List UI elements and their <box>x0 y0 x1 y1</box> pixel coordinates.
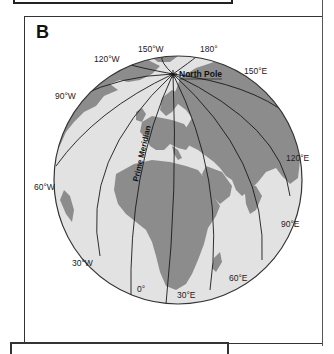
label-120w: 120°W <box>94 54 120 64</box>
label-180: 180° <box>200 44 218 54</box>
label-150e: 150°E <box>244 66 268 76</box>
label-90e: 90°E <box>281 219 300 229</box>
label-60e: 60°E <box>229 273 248 283</box>
north-pole-label: North Pole <box>179 69 222 79</box>
label-0: 0° <box>137 284 145 294</box>
label-150w: 150°W <box>138 44 164 54</box>
label-30w: 30°W <box>72 258 93 268</box>
label-90w: 90°W <box>55 91 76 101</box>
label-120e: 120°E <box>286 153 310 163</box>
label-60w: 60°W <box>34 182 55 192</box>
label-30e: 30°E <box>177 290 196 300</box>
